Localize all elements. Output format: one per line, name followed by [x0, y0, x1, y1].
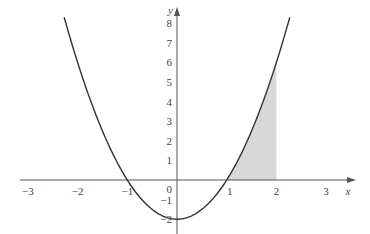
- tick-labels: −3−2−1123−2−1012345678xy: [22, 4, 351, 225]
- x-tick-label: 2: [274, 185, 280, 197]
- y-tick-label: 4: [167, 96, 173, 108]
- parabola-plot: −3−2−1123−2−1012345678xy: [0, 0, 370, 234]
- y-tick-label: −2: [160, 213, 172, 225]
- y-axis-label: y: [167, 4, 173, 16]
- y-tick-label: 0: [167, 183, 173, 195]
- x-axis-label: x: [345, 185, 351, 197]
- y-tick-label: 5: [167, 76, 173, 88]
- shaded-area: [227, 62, 277, 180]
- integral-shade: [227, 62, 277, 180]
- y-tick-label: 1: [167, 154, 173, 166]
- y-tick-label: 3: [167, 115, 173, 127]
- y-axis-arrow-icon: [174, 7, 180, 16]
- x-tick-label: −3: [22, 185, 34, 197]
- x-tick-label: 1: [227, 185, 233, 197]
- y-tick-label: 8: [167, 17, 173, 29]
- y-tick-label: 6: [167, 56, 173, 68]
- x-tick-label: −2: [72, 185, 84, 197]
- y-tick-label: 7: [167, 37, 173, 49]
- x-axis-arrow-icon: [347, 177, 356, 183]
- x-tick-label: −1: [121, 185, 133, 197]
- y-tick-label: −1: [160, 194, 172, 206]
- y-tick-label: 2: [167, 135, 173, 147]
- x-tick-label: 3: [323, 185, 329, 197]
